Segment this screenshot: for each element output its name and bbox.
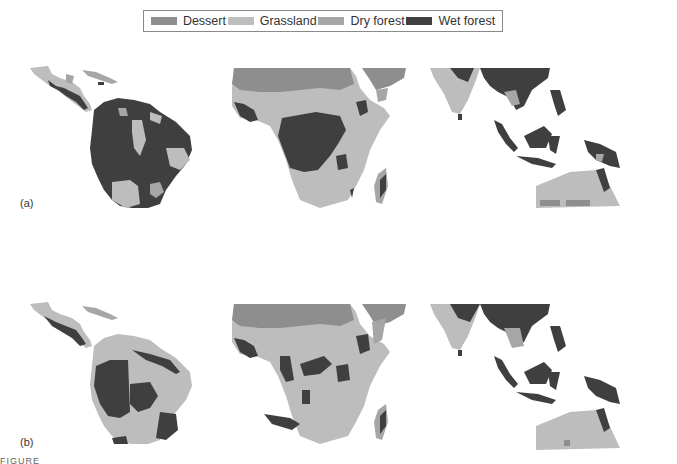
map-a-americas [0,60,220,220]
dry-forest-swatch-icon [318,17,344,25]
map-a-asia [420,60,677,220]
legend: Dessert Grassland Dry forest Wet forest [143,10,503,32]
panel-label-a: (a) [20,197,33,209]
wet-forest-swatch-icon [406,17,432,25]
legend-item-desert: Dessert [151,14,226,28]
map-b-asia [420,300,677,460]
legend-item-grassland: Grassland [228,14,317,28]
legend-label: Grassland [260,14,317,28]
desert-swatch-icon [151,17,177,25]
map-a-africa [220,60,420,220]
legend-item-wet-forest: Wet forest [406,14,495,28]
figure-caption-fragment: FIGURE 20.12 [0,458,60,464]
legend-label: Dry forest [350,14,404,28]
grassland-swatch-icon [228,17,254,25]
legend-label: Wet forest [438,14,495,28]
legend-item-dry-forest: Dry forest [318,14,404,28]
legend-label: Dessert [183,14,226,28]
panel-label-b: (b) [20,436,33,448]
map-b-africa [220,300,420,460]
